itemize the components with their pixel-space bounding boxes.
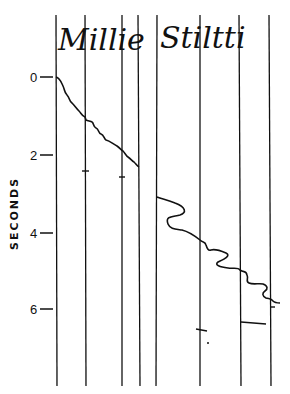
y-tick-label-0: 0 xyxy=(30,70,37,85)
signature-first-name: Millie xyxy=(57,22,145,57)
y-tick-label-6: 6 xyxy=(30,302,37,317)
y-axis: 0 2 4 6 SECONDS xyxy=(8,70,53,317)
y-axis-title: SECONDS xyxy=(8,177,21,250)
signature-last-name: Stiltti xyxy=(160,20,246,55)
trace-segment-1 xyxy=(56,77,139,167)
signature: Millie Stiltti xyxy=(57,20,246,57)
trace-segment-2 xyxy=(157,197,280,303)
y-tick-label-4: 4 xyxy=(30,226,37,241)
vertical-markers xyxy=(56,15,271,386)
y-tick-label-2: 2 xyxy=(30,148,37,163)
handwriting-timing-figure: Millie Stiltti 0 2 4 6 SECONDS xyxy=(0,0,290,394)
